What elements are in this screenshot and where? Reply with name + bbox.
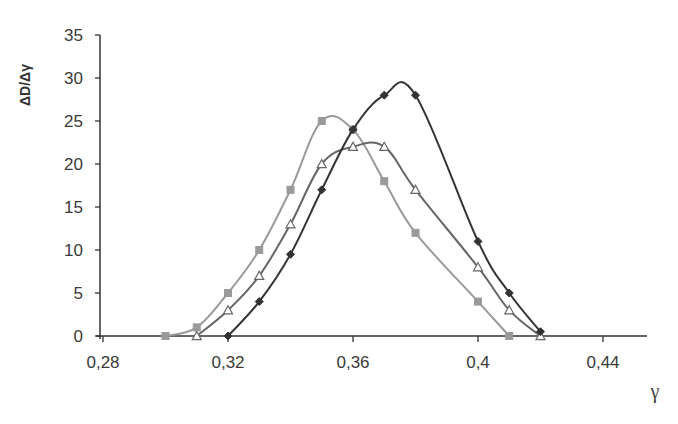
data-point-triangle bbox=[286, 220, 295, 228]
data-point-square bbox=[162, 333, 169, 340]
data-point-diamond bbox=[287, 250, 295, 258]
data-point-square bbox=[506, 333, 513, 340]
y-tick-label: 25 bbox=[64, 112, 83, 131]
x-tick-label: 0,44 bbox=[586, 353, 619, 372]
series-group bbox=[162, 82, 545, 340]
series-triangle-line bbox=[197, 143, 541, 336]
data-point-square bbox=[256, 247, 263, 254]
axes: 051015202530350,280,320,360,40,44 bbox=[64, 26, 647, 372]
y-axis-label: ΔD/Δγ bbox=[17, 64, 33, 106]
x-tick-label: 0,4 bbox=[466, 353, 490, 372]
data-point-square bbox=[287, 186, 294, 193]
y-tick-label: 35 bbox=[64, 26, 83, 45]
y-tick-label: 10 bbox=[64, 241, 83, 260]
series-square bbox=[162, 116, 513, 339]
series-triangle bbox=[192, 142, 545, 339]
series-diamond-line bbox=[228, 82, 541, 336]
y-tick-label: 5 bbox=[74, 284, 83, 303]
data-point-square bbox=[318, 118, 325, 125]
data-point-diamond bbox=[474, 237, 482, 245]
data-point-square bbox=[225, 290, 232, 297]
x-axis-label: γ bbox=[650, 380, 660, 403]
series-diamond bbox=[224, 82, 545, 340]
y-tick-label: 0 bbox=[74, 327, 83, 346]
chart: 051015202530350,280,320,360,40,44 ΔD/Δγ … bbox=[0, 0, 678, 424]
data-point-triangle bbox=[380, 142, 389, 150]
data-point-diamond bbox=[318, 186, 326, 194]
y-tick-label: 20 bbox=[64, 155, 83, 174]
data-point-square bbox=[193, 324, 200, 331]
series-square-line bbox=[166, 116, 510, 336]
data-point-square bbox=[475, 298, 482, 305]
x-tick-label: 0,32 bbox=[211, 353, 244, 372]
x-tick-label: 0,28 bbox=[86, 353, 119, 372]
y-tick-label: 15 bbox=[64, 198, 83, 217]
y-tick-label: 30 bbox=[64, 69, 83, 88]
data-point-square bbox=[412, 229, 419, 236]
data-point-square bbox=[381, 178, 388, 185]
x-tick-label: 0,36 bbox=[336, 353, 369, 372]
